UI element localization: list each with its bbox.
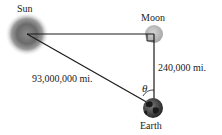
sun-label: Sun [17,4,33,14]
theta-label: θ [142,83,147,94]
moon-earth-distance-label: 240,000 mi. [158,63,206,73]
earth-icon [143,98,163,118]
sun-earth-distance-label: 93,000,000 mi. [32,74,93,84]
earth-label: Earth [140,121,162,131]
sun-earth-line [27,34,150,104]
moon-label: Moon [141,13,165,23]
